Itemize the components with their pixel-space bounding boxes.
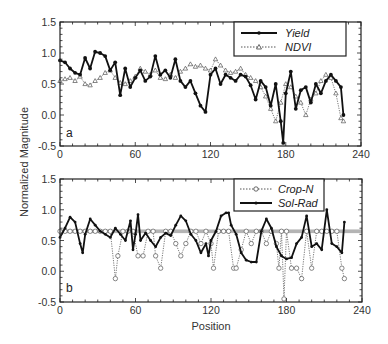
y-tick-label: 1.0: [41, 47, 56, 59]
series-sol-rad: [59, 208, 346, 263]
panel-b-legend: Crop-N Sol-Rad: [234, 179, 324, 211]
legend-sol-rad: Sol-Rad: [278, 197, 319, 209]
x-tick-label: 0: [57, 148, 63, 160]
y-tick-label: 0.5: [41, 78, 56, 90]
panel-b: 0601201802401.51.00.50.0-0.5 b Crop-N So…: [38, 173, 371, 316]
x-tick-label: 180: [277, 148, 295, 160]
y-tick-label: 1.0: [41, 204, 56, 216]
y-tick-label: 1.5: [41, 173, 56, 185]
y-tick-label: 0.0: [41, 109, 56, 121]
legend-crop-n: Crop-N: [278, 183, 314, 195]
circle-marker-icon: [254, 187, 258, 191]
x-tick-label: 240: [352, 148, 370, 160]
legend-ndvi: NDVI: [285, 41, 311, 53]
x-axis-title: Position: [191, 320, 230, 332]
panel-a-label: a: [66, 126, 73, 140]
series-crop-n: [58, 229, 347, 301]
panel-a-legend: Yield NDVI: [234, 22, 346, 56]
y-tick-label: 0.5: [41, 235, 56, 247]
panel-b-plot-area: [58, 208, 362, 301]
x-tick-label: 60: [129, 148, 141, 160]
series-yield: [58, 50, 345, 145]
y-tick-label: 1.5: [41, 16, 56, 28]
x-tick-label: 180: [278, 304, 296, 316]
x-tick-label: 60: [130, 304, 142, 316]
panel-b-label: b: [66, 281, 73, 295]
legend-yield: Yield: [285, 27, 310, 39]
panel-a-plot-area: [58, 50, 346, 145]
x-tick-label: 120: [202, 148, 220, 160]
y-tick-label: -0.5: [38, 296, 56, 308]
y-tick-label: -0.5: [38, 140, 56, 152]
x-tick-label: 0: [57, 304, 63, 316]
y-tick-label: 0.0: [41, 265, 56, 277]
x-tick-label: 120: [202, 304, 220, 316]
y-axis-title: Normalized Magnitude: [18, 107, 30, 217]
x-tick-label: 240: [353, 304, 371, 316]
figure: Normalized Magnitude Position 0601201802…: [0, 0, 388, 344]
panel-a: 0601201802401.51.00.50.0-0.5 a Yield NDV…: [38, 16, 370, 160]
